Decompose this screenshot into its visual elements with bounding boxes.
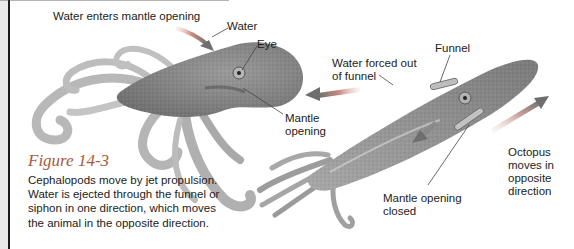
label-eye: Eye [257, 38, 277, 51]
label-mantle-opening-closed: Mantle opening closed [383, 192, 462, 218]
textbook-page: Water enters mantle opening Water Eye Ma… [0, 0, 574, 249]
label-water-enters: Water enters mantle opening [53, 10, 200, 23]
label-octopus-moves: Octopus moves in opposite direction [508, 146, 554, 198]
label-funnel: Funnel [435, 42, 470, 55]
arrow-right-icon [176, 28, 214, 51]
figure-caption: Cephalopods move by jet propulsion. Wate… [28, 173, 228, 230]
figure-title: Figure 14-3 [28, 151, 109, 171]
label-water-forced-out: Water forced out of funnel [332, 57, 417, 83]
arrow-left-icon [305, 87, 360, 101]
label-water: Water [227, 20, 257, 33]
label-mantle-opening: Mantle opening [285, 112, 326, 138]
